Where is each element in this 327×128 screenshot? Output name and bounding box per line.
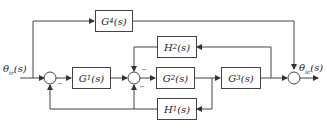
block-diagram: G4(s) H2(s) G1(s) G2(s) G3(s) H1(s) θir(…: [0, 0, 327, 128]
block-h2: H2(s): [157, 36, 197, 58]
block-g2: G2(s): [156, 67, 195, 89]
sum2-bottom-minus-sign: −: [139, 83, 145, 91]
input-label: θir(s): [3, 63, 27, 76]
block-g3: G3(s): [221, 67, 261, 89]
block-g1: G1(s): [72, 67, 111, 89]
block-h1: H1(s): [157, 98, 197, 120]
output-label: θic(s): [299, 62, 323, 75]
block-g4: G4(s): [95, 10, 133, 32]
sum2-top-minus-sign: −: [141, 66, 147, 74]
sum1-minus-sign: −: [57, 80, 63, 88]
